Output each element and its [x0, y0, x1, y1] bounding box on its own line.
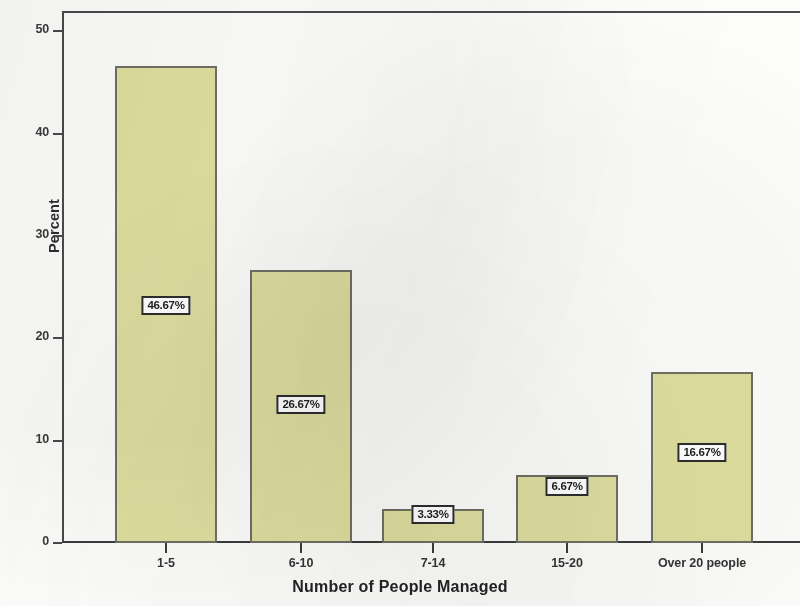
bar-data-label: 6.67%	[545, 477, 588, 496]
y-tick-label: 20	[35, 329, 49, 343]
bar-data-label: 16.67%	[677, 443, 726, 462]
bar-data-label: 3.33%	[411, 505, 454, 524]
y-tick-label: 50	[35, 22, 49, 36]
x-tick-label: 7-14	[421, 556, 446, 570]
y-tick-mark	[53, 133, 62, 135]
bar-data-label: 46.67%	[141, 296, 190, 315]
x-tick-mark	[432, 543, 434, 553]
bar-data-label: 26.67%	[276, 395, 325, 414]
y-tick-mark	[53, 235, 62, 237]
x-tick-mark	[701, 543, 703, 553]
x-tick-label: Over 20 people	[658, 556, 746, 570]
y-axis-title: Percent	[46, 166, 62, 286]
x-tick-label: 6-10	[289, 556, 314, 570]
x-tick-label: 15-20	[551, 556, 582, 570]
x-tick-mark	[300, 543, 302, 553]
x-tick-mark	[165, 543, 167, 553]
y-tick-label: 40	[35, 125, 49, 139]
y-tick-mark	[53, 30, 62, 32]
y-tick-mark	[53, 337, 62, 339]
x-axis-title: Number of People Managed	[0, 578, 800, 596]
y-tick-mark	[53, 542, 62, 544]
y-tick-label: 30	[35, 227, 49, 241]
y-tick-label: 10	[35, 432, 49, 446]
x-tick-mark	[566, 543, 568, 553]
y-tick-mark	[53, 440, 62, 442]
chart-page: Percent 01020304050 46.67%26.67%3.33%6.6…	[0, 0, 800, 606]
y-tick-label: 0	[42, 534, 49, 548]
x-tick-label: 1-5	[157, 556, 175, 570]
